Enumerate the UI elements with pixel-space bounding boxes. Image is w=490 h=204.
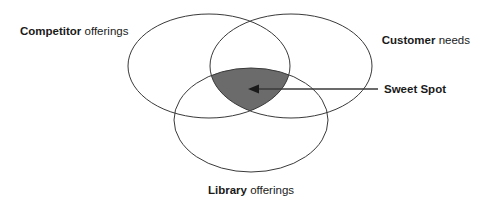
label-sweet-spot: Sweet Spot — [384, 83, 446, 95]
label-sweet-spot-strong: Sweet Spot — [384, 83, 446, 95]
label-customer-plain: needs — [435, 34, 470, 46]
label-competitor-plain: offerings — [81, 25, 128, 37]
label-library-plain: offerings — [247, 184, 294, 196]
venn-diagram: Competitor offerings Customer needs Libr… — [0, 0, 490, 204]
label-library-strong: Library — [208, 184, 248, 196]
label-competitor-strong: Competitor — [20, 25, 82, 37]
label-customer-strong: Customer — [382, 34, 436, 46]
label-customer: Customer needs — [382, 34, 470, 46]
label-competitor: Competitor offerings — [20, 25, 129, 37]
label-library: Library offerings — [208, 184, 294, 196]
